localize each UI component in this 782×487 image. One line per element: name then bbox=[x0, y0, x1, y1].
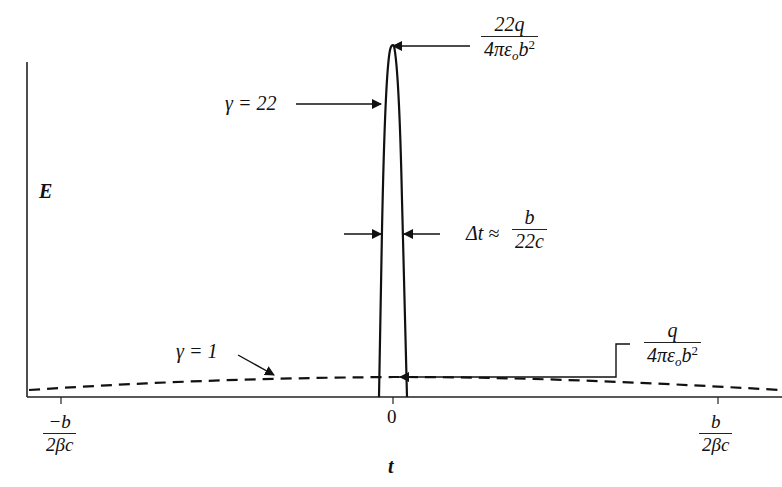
x-axis-label: t bbox=[388, 455, 394, 478]
dt-numerator: b bbox=[521, 207, 537, 229]
dt-fraction: b 22c bbox=[512, 207, 547, 252]
dt-prefix: Δt ≈ bbox=[466, 222, 499, 245]
den-sup: 2 bbox=[691, 343, 698, 358]
den-sup: 2 bbox=[528, 37, 535, 52]
tick-label-left: −b 2βc bbox=[43, 412, 76, 455]
peak1-label: q 4πεob2 bbox=[644, 320, 701, 369]
gamma1-label: γ = 1 bbox=[176, 340, 217, 363]
den-main: 4πε bbox=[647, 344, 675, 366]
peak1-denominator: 4πεob2 bbox=[644, 343, 701, 369]
tick-right-numerator: b bbox=[708, 412, 724, 433]
den-main: 4πε bbox=[484, 38, 512, 60]
gamma22-label: γ = 22 bbox=[225, 92, 276, 115]
tick-left-denominator: 2βc bbox=[43, 434, 76, 455]
tick-label-right: b 2βc bbox=[699, 412, 732, 455]
peak1-numerator: q bbox=[664, 320, 680, 342]
y-axis-label: E bbox=[39, 180, 52, 203]
gamma1-arrow bbox=[238, 355, 274, 375]
dt-denominator: 22c bbox=[512, 230, 547, 252]
peak22-numerator: 22q bbox=[491, 14, 527, 36]
peak22-label: 22q 4πεob2 bbox=[481, 14, 538, 63]
tick-label-zero: 0 bbox=[387, 406, 397, 428]
peak1-leader bbox=[400, 344, 630, 377]
den-b: b bbox=[681, 344, 691, 366]
tick-right-denominator: 2βc bbox=[699, 434, 732, 455]
peak22-denominator: 4πεob2 bbox=[481, 37, 538, 63]
tick-left-numerator: −b bbox=[46, 412, 74, 433]
den-b: b bbox=[518, 38, 528, 60]
curve-gamma-1 bbox=[29, 377, 780, 390]
curve-gamma-22 bbox=[379, 45, 407, 397]
